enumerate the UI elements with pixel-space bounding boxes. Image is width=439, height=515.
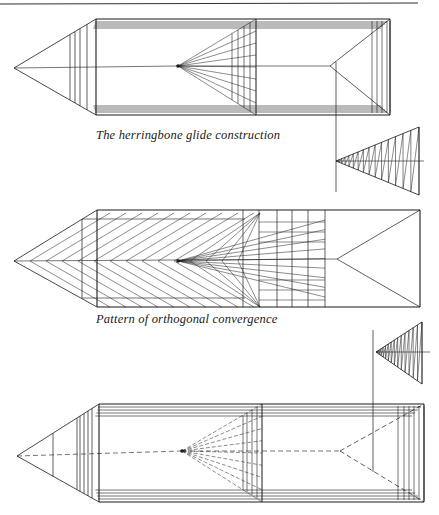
caption-orthogonal: Pattern of orthogonal convergence bbox=[96, 312, 277, 327]
top-rule bbox=[0, 3, 418, 4]
orthogonal-convergence-figure bbox=[14, 210, 420, 307]
herringbone-glide-figure bbox=[14, 19, 424, 195]
caption-herringbone: The herringbone glide construction bbox=[96, 128, 280, 143]
third-perspective-figure bbox=[17, 322, 430, 502]
perspective-diagram bbox=[0, 0, 439, 515]
